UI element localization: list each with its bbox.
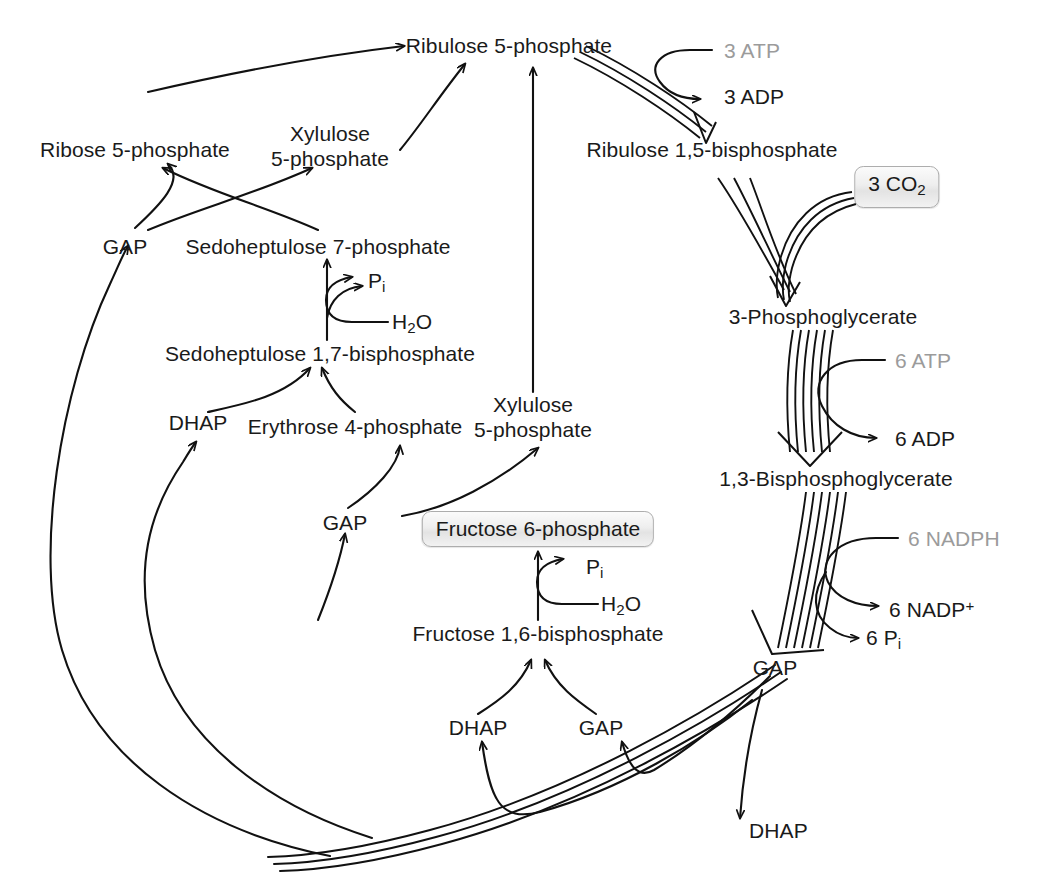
cofactor-pi-sedoheptulose: Pi — [368, 268, 386, 299]
node-ribulose-5-phosphate: Ribulose 5-phosphate — [406, 33, 612, 58]
node-ribulose-15-bisphosphate: Ribulose 1,5-bisphosphate — [586, 137, 837, 162]
node-xylulose-5-phosphate-top: Xylulose 5-phosphate — [271, 121, 389, 171]
node-dhap-exit: DHAP — [749, 818, 808, 843]
node-gap-left-upper: GAP — [103, 234, 148, 259]
node-gap-right: GAP — [753, 655, 798, 680]
cofactor-h2o-fructose: H2O — [601, 591, 641, 622]
cofactor-6-nadp-plus: 6 NADP+ — [889, 593, 974, 622]
calvin-cycle-diagram: Ribulose 5-phosphate Ribose 5-phosphate … — [0, 0, 1044, 895]
node-gap-mid: GAP — [323, 510, 368, 535]
xylulose-top-line1: Xylulose — [290, 122, 370, 145]
cofactor-3-adp: 3 ADP — [724, 84, 784, 109]
node-3-co2: 3 CO2 — [854, 166, 939, 208]
node-ribose-5-phosphate: Ribose 5-phosphate — [40, 137, 230, 162]
node-sedoheptulose-17-bisphosphate: Sedoheptulose 1,7-bisphosphate — [165, 341, 475, 366]
cofactor-6-atp: 6 ATP — [895, 348, 951, 373]
xylulose-mid-line1: Xylulose — [493, 393, 573, 416]
cofactor-6-pi: 6 Pi — [866, 625, 901, 656]
node-fructose-6-phosphate: Fructose 6-phosphate — [422, 511, 654, 547]
node-13-bisphosphoglycerate: 1,3-Bisphosphoglycerate — [719, 466, 952, 491]
cofactor-3-atp: 3 ATP — [724, 38, 780, 63]
cofactor-pi-fructose: Pi — [586, 554, 604, 585]
node-xylulose-5-phosphate-mid: Xylulose 5-phosphate — [474, 392, 592, 442]
xylulose-mid-line2: 5-phosphate — [474, 418, 592, 441]
cofactor-6-adp: 6 ADP — [895, 426, 955, 451]
node-3-phosphoglycerate: 3-Phosphoglycerate — [729, 304, 918, 329]
cofactor-h2o-sedoheptulose: H2O — [392, 309, 432, 340]
node-sedoheptulose-7-phosphate: Sedoheptulose 7-phosphate — [185, 234, 450, 259]
cofactor-6-nadph: 6 NADPH — [908, 526, 1000, 551]
pathway-arrows-layer — [0, 0, 1044, 895]
node-dhap-bottom: DHAP — [449, 715, 508, 740]
xylulose-top-line2: 5-phosphate — [271, 147, 389, 170]
node-erythrose-4-phosphate: Erythrose 4-phosphate — [248, 414, 463, 439]
node-dhap-left: DHAP — [169, 410, 228, 435]
node-fructose-16-bisphosphate: Fructose 1,6-bisphosphate — [412, 621, 663, 646]
node-gap-bottom: GAP — [579, 715, 624, 740]
